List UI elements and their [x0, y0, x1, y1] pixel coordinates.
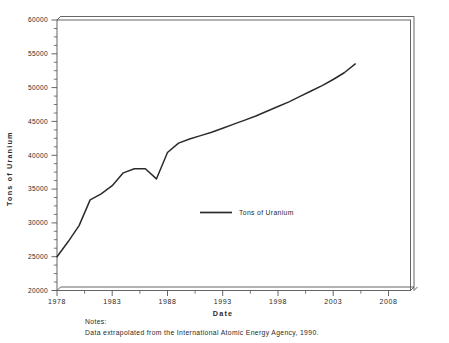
y-tick-label-20000: 20000: [12, 287, 48, 294]
legend-label-tons-of-uranium: Tons of Uranium: [239, 209, 294, 216]
y-tick-label-45000: 45000: [12, 118, 48, 125]
x-tick-label-2003: 2003: [315, 298, 351, 305]
y-axis-major-ticks: [52, 20, 58, 291]
x-tick-label-2008: 2008: [371, 298, 407, 305]
chart-canvas: [0, 0, 449, 343]
notes-body: Data extrapolated from the International…: [85, 329, 319, 336]
x-axis-major-ticks: [57, 291, 389, 297]
plot-frame-3d: [57, 17, 418, 291]
y-tick-label-40000: 40000: [12, 152, 48, 159]
y-tick-label-60000: 60000: [12, 16, 48, 23]
y-tick-label-55000: 55000: [12, 50, 48, 57]
data-line-tons-of-uranium: [57, 64, 355, 257]
x-tick-label-1993: 1993: [205, 298, 241, 305]
x-tick-label-1998: 1998: [260, 298, 296, 305]
x-tick-label-1978: 1978: [39, 298, 75, 305]
y-tick-label-50000: 50000: [12, 84, 48, 91]
x-tick-label-1983: 1983: [94, 298, 130, 305]
y-tick-label-30000: 30000: [12, 219, 48, 226]
y-tick-label-25000: 25000: [12, 253, 48, 260]
x-tick-label-1988: 1988: [150, 298, 186, 305]
notes-heading: Notes:: [85, 318, 107, 325]
x-axis-title: Date: [183, 309, 263, 318]
y-axis-title: Tons of Uranium: [5, 131, 14, 206]
uranium-production-chart: 60000 55000 50000 45000 40000 35000 3000…: [0, 0, 449, 343]
y-tick-label-35000: 35000: [12, 185, 48, 192]
